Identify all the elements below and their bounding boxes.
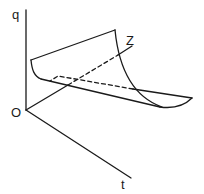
q-axis-label: q <box>12 8 19 21</box>
surface-left-edge <box>31 60 41 79</box>
surface-hidden-edge <box>50 76 133 89</box>
origin-label: O <box>11 106 21 119</box>
diagram-canvas <box>0 0 204 194</box>
t-axis-label: t <box>121 178 125 191</box>
surface-back-edge <box>133 89 192 98</box>
t-axis <box>26 110 131 178</box>
z-axis-label: Z <box>126 34 134 47</box>
surface-front-edge <box>41 79 160 107</box>
surface-bottom-right <box>160 98 192 107</box>
surface-diagram: q Z O t <box>0 0 204 194</box>
z-axis-hidden <box>68 55 118 85</box>
surface-right-curve <box>115 30 162 107</box>
z-axis-front <box>26 85 68 110</box>
surface-top-edge <box>31 30 115 60</box>
